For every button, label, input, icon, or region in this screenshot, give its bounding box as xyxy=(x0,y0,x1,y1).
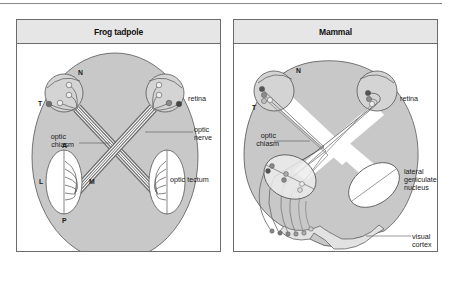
mammal-left-cell xyxy=(259,86,264,91)
mammal-left-cell xyxy=(267,97,272,102)
frog-label-nasal: N xyxy=(78,69,83,76)
mammal-right-cell xyxy=(366,96,371,101)
mammal-left-cell xyxy=(261,92,266,97)
mammal-left-cell xyxy=(261,98,266,103)
frog-tadpole-panel: Frog tadpole xyxy=(16,19,221,252)
mammal-right-cell xyxy=(365,90,370,95)
frog-label-retina: retina xyxy=(188,94,206,103)
frog-left-cell xyxy=(66,92,72,98)
mammal-right-cell xyxy=(369,101,374,106)
frog-label-posterior: P xyxy=(62,217,67,224)
mammal-right-retina xyxy=(357,71,397,111)
frog-label-medial: M xyxy=(89,178,95,185)
mammal-label-optic-chiasm-2: chiasm xyxy=(256,139,279,148)
mammal-label-retina: retina xyxy=(400,94,418,103)
frog-right-cell xyxy=(156,92,162,98)
frog-right-cell xyxy=(166,100,172,106)
frog-label-lateral: L xyxy=(39,178,43,185)
mammal-label-lgn-3: nucleus xyxy=(404,183,429,192)
mammal-label-visual-cortex-2: cortex xyxy=(412,240,432,249)
frog-right-cell xyxy=(176,101,182,107)
frog-label-optic-nerve-2: nerve xyxy=(194,133,212,142)
mammal-label-nasal: N xyxy=(296,67,301,74)
frog-left-cell xyxy=(57,100,63,106)
frog-diagram: N T retina optic nerve optic chiasm A P … xyxy=(17,43,220,251)
frog-left-cell xyxy=(46,101,52,107)
frog-left-cell xyxy=(66,82,72,88)
frog-label-optic-tectum: optic tectum xyxy=(170,175,209,184)
mammal-diagram: N T retina optic chiasm lateral genicula… xyxy=(234,43,437,251)
panel-title-mammal: Mammal xyxy=(234,20,437,44)
panel-title-frog: Frog tadpole xyxy=(17,20,220,44)
frog-label-anterior: A xyxy=(62,142,67,149)
mammal-panel: Mammal xyxy=(233,19,438,252)
frog-right-cell xyxy=(156,82,162,88)
top-rule xyxy=(0,3,442,4)
